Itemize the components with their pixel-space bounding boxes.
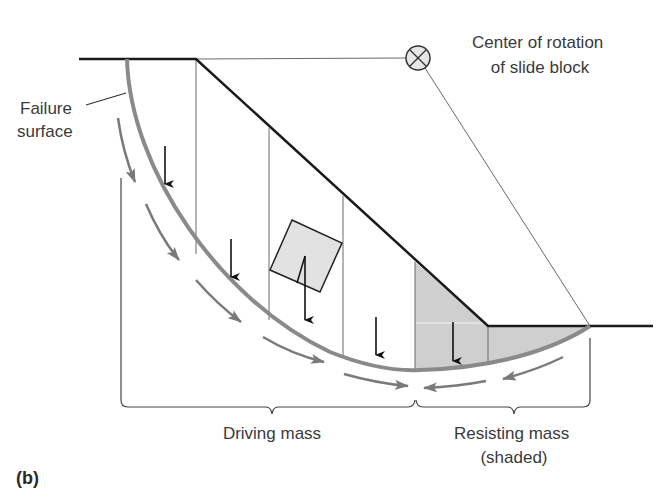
- driving-motion-arrow-icon: [146, 204, 179, 260]
- resisting-motion-arrow-icon: [503, 357, 563, 379]
- driving-mass-label: Driving mass: [223, 424, 321, 443]
- center-of-rotation-label: Center of rotation of slide block: [472, 33, 608, 77]
- panel-label: (b): [16, 468, 39, 488]
- resisting-motion-arrow-icon: [424, 381, 486, 388]
- center-of-rotation-icon: [406, 46, 430, 70]
- slope-failure-diagram: Failure surface Center of rotation of sl…: [0, 0, 672, 497]
- failure-surface-label: Failure surface: [17, 99, 77, 141]
- driving-motion-arrow-icon: [196, 280, 241, 322]
- resisting-mass-label: Resisting mass (shaded): [454, 424, 574, 467]
- driving-motion-arrow-icon: [263, 337, 324, 362]
- failure-surface-leader: [86, 93, 126, 105]
- slide-block-element: [270, 220, 342, 292]
- radius-line-toe: [425, 68, 590, 326]
- driving-motion-arrow-icon: [118, 118, 135, 182]
- driving-mass-brace: [121, 178, 415, 414]
- driving-motion-arrow-icon: [344, 374, 408, 386]
- resisting-mass-shading: [415, 262, 590, 370]
- radius-line-top: [196, 58, 406, 59]
